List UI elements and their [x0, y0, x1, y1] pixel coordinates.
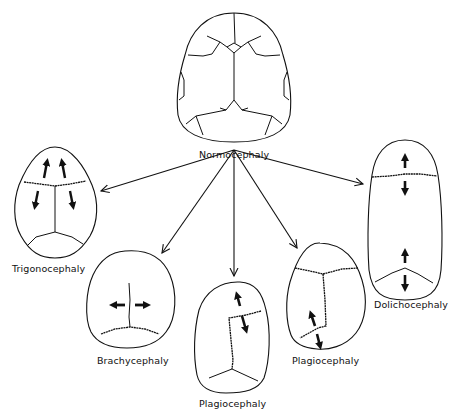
plagiocephaly-occipital-skull: [287, 243, 366, 349]
diagram-canvas: [0, 0, 453, 420]
trigonocephaly-skull: [15, 147, 97, 258]
label-trigonocephaly: Trigonocephaly: [12, 263, 85, 274]
label-plagiocephaly-occipital: Plagiocephaly: [292, 355, 359, 366]
plagiocephaly-frontal-skull: [195, 282, 270, 393]
label-brachycephaly: Brachycephaly: [97, 355, 169, 366]
brachycephaly-skull: [87, 251, 175, 348]
dolichocephaly-skull: [368, 140, 442, 300]
arrow-to-brachycephaly: [162, 150, 234, 253]
label-dolichocephaly: Dolichocephaly: [374, 299, 448, 310]
label-normocephaly: Normocephaly: [199, 149, 269, 160]
label-plagiocephaly-frontal: Plagiocephaly: [199, 398, 266, 409]
normocephaly-skull: [177, 13, 290, 142]
arrow-to-plagiocephaly-occipital: [234, 150, 297, 248]
